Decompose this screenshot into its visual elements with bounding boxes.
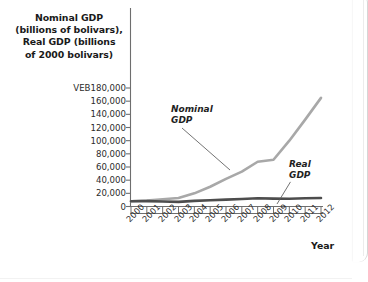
series-label-real-gdp-line1: Real bbox=[289, 159, 311, 169]
series-label-real-gdp: Real GDP bbox=[286, 158, 314, 182]
x-axis-title: Year bbox=[311, 240, 334, 251]
series-label-nominal-gdp-line2: GDP bbox=[171, 115, 192, 125]
series-label-nominal-gdp: Nominal GDP bbox=[168, 103, 216, 127]
plot-area: 020,00040,00060,00080,000100,000120,0001… bbox=[0, 0, 368, 282]
figure-card: Nominal GDP (billions of bolivars), Real… bbox=[0, 0, 368, 282]
series-label-nominal-gdp-line1: Nominal bbox=[171, 104, 213, 114]
series-label-real-gdp-line2: GDP bbox=[289, 170, 310, 180]
